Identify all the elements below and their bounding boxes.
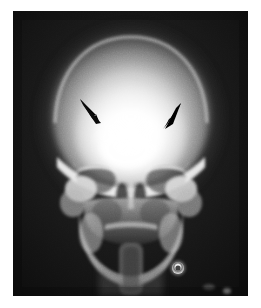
radiograph-canvas	[13, 11, 248, 296]
film-grain-overlay	[13, 11, 248, 296]
figure-root: X-ray AP (anteroposterior) skull skull	[0, 0, 261, 308]
radiograph-image	[13, 11, 248, 296]
